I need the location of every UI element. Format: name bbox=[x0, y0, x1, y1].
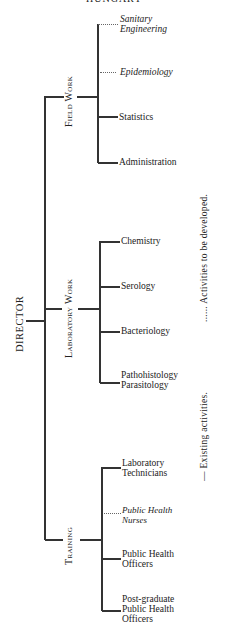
branch-solid bbox=[98, 162, 118, 164]
item-administration: Administration bbox=[119, 157, 177, 167]
branch-solid bbox=[100, 286, 120, 288]
item-statistics: Statistics bbox=[119, 112, 153, 122]
legend-existing: — Existing activities. bbox=[199, 392, 209, 481]
chart-title: HUNGARY bbox=[86, 0, 142, 4]
item-chemistry: Chemistry bbox=[121, 236, 161, 246]
item-public-health-officers: Public Health Officers bbox=[122, 549, 174, 569]
branch-solid bbox=[102, 558, 121, 560]
item-line: Statistics bbox=[119, 112, 153, 122]
item-line: Public Health bbox=[122, 505, 172, 515]
main-trunk-line bbox=[44, 96, 46, 540]
field-work-label: Field Work bbox=[63, 76, 74, 127]
branch-dotted bbox=[100, 72, 116, 73]
item-postgraduate-public-health-officers: Post-graduate Public Health Officers bbox=[122, 594, 174, 624]
field-work-branch-line bbox=[97, 24, 99, 163]
branch-solid bbox=[98, 116, 118, 118]
director-connector bbox=[26, 320, 45, 322]
item-line: Nurses bbox=[122, 515, 172, 525]
item-line: Officers bbox=[122, 559, 174, 569]
item-laboratory-technicians: Laboratory Technicians bbox=[122, 458, 167, 478]
item-line: Serology bbox=[121, 281, 155, 291]
lab-work-connector-left bbox=[45, 308, 62, 310]
training-branch-line bbox=[101, 467, 103, 611]
item-line: Public Health bbox=[122, 604, 174, 614]
lab-work-branch-line bbox=[99, 241, 101, 383]
director-label: DIRECTOR bbox=[14, 296, 25, 352]
item-public-health-nurses: Public Health Nurses bbox=[122, 505, 172, 525]
item-line: Parasitology bbox=[121, 380, 178, 390]
field-work-connector-left bbox=[45, 96, 64, 98]
branch-solid bbox=[102, 467, 121, 469]
branch-dotted bbox=[98, 24, 118, 25]
lab-work-connector-right bbox=[78, 308, 100, 310]
item-line: Administration bbox=[119, 157, 177, 167]
field-work-connector-right bbox=[77, 96, 97, 98]
training-connector-right bbox=[80, 539, 101, 541]
item-line: Bacteriology bbox=[121, 326, 170, 336]
lab-work-label: Laboratory Work bbox=[63, 279, 74, 358]
branch-solid bbox=[102, 610, 121, 612]
item-pathohistology-parasitology: Pathohistology Parasitology bbox=[121, 370, 178, 390]
training-label: Training bbox=[63, 527, 74, 565]
training-connector-left bbox=[45, 539, 63, 541]
item-line: Engineering bbox=[120, 24, 167, 34]
branch-solid bbox=[100, 241, 120, 243]
item-line: Pathohistology bbox=[121, 370, 178, 380]
item-line: Technicians bbox=[122, 468, 167, 478]
item-line: Chemistry bbox=[121, 236, 161, 246]
branch-solid bbox=[100, 382, 120, 384]
item-bacteriology: Bacteriology bbox=[121, 326, 170, 336]
item-line: Sanitary bbox=[120, 14, 167, 24]
item-sanitary-engineering: Sanitary Engineering bbox=[120, 14, 167, 34]
branch-dotted bbox=[104, 513, 121, 514]
branch-solid bbox=[100, 331, 120, 333]
item-line: Epidemiology bbox=[120, 67, 173, 77]
item-epidemiology: Epidemiology bbox=[120, 67, 173, 77]
item-serology: Serology bbox=[121, 281, 155, 291]
item-line: Public Health bbox=[122, 549, 174, 559]
legend-to-be-developed: ...... Activities to be developed. bbox=[199, 194, 209, 322]
item-line: Officers bbox=[122, 614, 174, 624]
item-line: Post-graduate bbox=[122, 594, 174, 604]
item-line: Laboratory bbox=[122, 458, 167, 468]
